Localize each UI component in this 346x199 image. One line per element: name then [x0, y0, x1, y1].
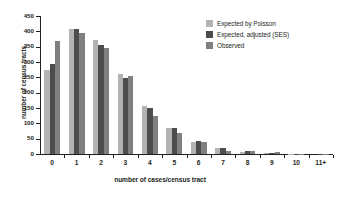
x-axis-tick-label: 0: [50, 159, 54, 166]
bar: [153, 116, 158, 154]
chart-figure: number of census tracts 0501001502002503…: [0, 0, 346, 199]
y-axis-tick-label: 350: [24, 42, 34, 49]
x-axis-tick-label: 10: [293, 159, 300, 166]
y-axis-tick: 150: [36, 108, 40, 109]
x-axis-tick-label: 4: [148, 159, 152, 166]
bar: [275, 152, 280, 154]
y-axis-tick: 450: [36, 16, 40, 17]
legend-swatch-icon: [206, 20, 213, 27]
x-axis-title: number of cases/census tract: [30, 176, 290, 183]
bar: [55, 41, 60, 154]
x-axis-tick: [64, 155, 65, 158]
legend-label: Expected by Poisson: [217, 20, 276, 27]
x-axis-tick-label: 5: [172, 159, 176, 166]
y-axis-tick-label: 200: [24, 88, 34, 95]
y-axis-tick-label: 250: [24, 73, 34, 80]
legend-swatch-icon: [206, 31, 213, 38]
legend-label: Expected, adjusted (SES): [217, 31, 289, 38]
x-axis-tick: [260, 155, 261, 158]
bar: [104, 48, 109, 154]
y-axis-tick: 350: [36, 47, 40, 48]
legend-label: Observed: [217, 42, 244, 49]
bar: [79, 33, 84, 154]
y-axis-tick-label: 0: [31, 150, 34, 157]
x-axis-tick: [284, 155, 285, 158]
y-axis-tick-label: 50: [27, 134, 34, 141]
x-axis-tick: [333, 155, 334, 158]
x-axis-tick: [113, 155, 114, 158]
y-axis-tick: 300: [36, 62, 40, 63]
legend-item: Expected by Poisson: [206, 18, 289, 29]
chart-legend: Expected by PoissonExpected, adjusted (S…: [206, 18, 289, 51]
x-axis-tick-label: 11+: [315, 159, 326, 166]
y-axis-tick: 0: [36, 154, 40, 155]
plot-area: 050100150200250300350400450 012345678910…: [40, 16, 333, 155]
x-axis-tick-label: 6: [197, 159, 201, 166]
x-axis-tick-label: 7: [221, 159, 225, 166]
x-axis-tick: [89, 155, 90, 158]
y-axis-tick: 400: [36, 31, 40, 32]
x-axis-tick: [138, 155, 139, 158]
legend-swatch-icon: [206, 42, 213, 49]
bar: [177, 133, 182, 154]
y-axis-tick: 200: [36, 93, 40, 94]
y-axis-tick-label: 400: [24, 27, 34, 34]
y-axis-tick-label: 150: [24, 104, 34, 111]
y-axis-tick-label: 300: [24, 58, 34, 65]
y-axis-tick: 50: [36, 139, 40, 140]
y-axis-tick-label: 450: [24, 12, 34, 19]
legend-item: Observed: [206, 40, 289, 51]
y-axis-tick: 250: [36, 77, 40, 78]
x-axis-tick-label: 2: [99, 159, 103, 166]
y-axis-tick-label: 100: [24, 119, 34, 126]
y-axis-tick: 100: [36, 123, 40, 124]
x-axis-tick-label: 9: [270, 159, 274, 166]
x-axis-tick: [309, 155, 310, 158]
bar: [226, 151, 231, 154]
bar: [250, 151, 255, 154]
y-axis-line: [40, 16, 41, 155]
x-axis-tick-label: 1: [75, 159, 79, 166]
legend-item: Expected, adjusted (SES): [206, 29, 289, 40]
x-axis-tick: [211, 155, 212, 158]
x-axis-tick: [235, 155, 236, 158]
x-axis-tick-label: 8: [246, 159, 250, 166]
x-axis-tick: [187, 155, 188, 158]
x-axis-tick: [162, 155, 163, 158]
bar: [201, 142, 206, 154]
bar: [128, 76, 133, 155]
x-axis-tick-label: 3: [124, 159, 128, 166]
